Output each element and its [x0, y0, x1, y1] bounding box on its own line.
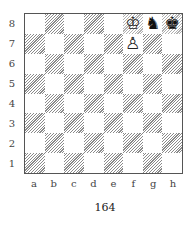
file-label: d — [84, 178, 104, 192]
square-e7 — [104, 34, 124, 54]
square-b8 — [45, 14, 65, 34]
square-e4 — [104, 94, 124, 114]
square-g2 — [143, 133, 163, 153]
square-c3 — [64, 113, 84, 133]
square-f1 — [123, 153, 143, 173]
square-c6 — [64, 54, 84, 74]
square-a4 — [25, 94, 45, 114]
square-h5 — [162, 74, 182, 94]
chess-board: ♔♞♚♙ — [24, 13, 183, 174]
square-c7 — [64, 34, 84, 54]
square-d8 — [84, 14, 104, 34]
square-e2 — [104, 133, 124, 153]
rank-label: 2 — [6, 134, 18, 154]
square-h6 — [162, 54, 182, 74]
square-b4 — [45, 94, 65, 114]
square-a2 — [25, 133, 45, 153]
square-h4 — [162, 94, 182, 114]
file-label: g — [143, 178, 163, 192]
square-c5 — [64, 74, 84, 94]
black-knight-icon: ♞ — [145, 15, 160, 32]
square-d3 — [84, 113, 104, 133]
rank-label: 6 — [6, 53, 18, 73]
square-d7 — [84, 34, 104, 54]
square-h2 — [162, 133, 182, 153]
file-label: b — [44, 178, 64, 192]
black-king-icon: ♚ — [165, 15, 180, 32]
square-b2 — [45, 133, 65, 153]
file-label: c — [64, 178, 84, 192]
square-f8: ♔ — [123, 14, 143, 34]
file-label: a — [24, 178, 44, 192]
square-e5 — [104, 74, 124, 94]
square-b5 — [45, 74, 65, 94]
square-g7 — [143, 34, 163, 54]
square-a8 — [25, 14, 45, 34]
file-label: e — [104, 178, 124, 192]
white-pawn-icon: ♙ — [125, 35, 140, 52]
square-f3 — [123, 113, 143, 133]
file-label: h — [163, 178, 183, 192]
square-a7 — [25, 34, 45, 54]
square-a6 — [25, 54, 45, 74]
white-king-icon: ♔ — [125, 15, 140, 32]
square-a3 — [25, 113, 45, 133]
square-b3 — [45, 113, 65, 133]
square-e1 — [104, 153, 124, 173]
square-g1 — [143, 153, 163, 173]
square-e6 — [104, 54, 124, 74]
square-c2 — [64, 133, 84, 153]
square-d4 — [84, 94, 104, 114]
rank-label: 3 — [6, 114, 18, 134]
square-d5 — [84, 74, 104, 94]
square-d1 — [84, 153, 104, 173]
rank-labels: 8 7 6 5 4 3 2 1 — [6, 13, 18, 174]
diagram-caption: 164 — [0, 201, 189, 214]
square-d6 — [84, 54, 104, 74]
square-e3 — [104, 113, 124, 133]
square-a1 — [25, 153, 45, 173]
square-b1 — [45, 153, 65, 173]
rank-label: 4 — [6, 94, 18, 114]
square-c8 — [64, 14, 84, 34]
square-f5 — [123, 74, 143, 94]
square-b7 — [45, 34, 65, 54]
rank-label: 1 — [6, 154, 18, 174]
square-d2 — [84, 133, 104, 153]
square-h1 — [162, 153, 182, 173]
square-h3 — [162, 113, 182, 133]
square-f4 — [123, 94, 143, 114]
square-c4 — [64, 94, 84, 114]
square-g8: ♞ — [143, 14, 163, 34]
square-b6 — [45, 54, 65, 74]
rank-label: 8 — [6, 13, 18, 33]
square-g6 — [143, 54, 163, 74]
file-label: f — [123, 178, 143, 192]
square-h8: ♚ — [162, 14, 182, 34]
square-g4 — [143, 94, 163, 114]
square-h7 — [162, 34, 182, 54]
rank-label: 7 — [6, 33, 18, 53]
square-f2 — [123, 133, 143, 153]
square-f6 — [123, 54, 143, 74]
square-a5 — [25, 74, 45, 94]
square-f7: ♙ — [123, 34, 143, 54]
square-c1 — [64, 153, 84, 173]
rank-label: 5 — [6, 73, 18, 93]
square-g3 — [143, 113, 163, 133]
file-labels: a b c d e f g h — [24, 178, 183, 192]
square-e8 — [104, 14, 124, 34]
square-g5 — [143, 74, 163, 94]
